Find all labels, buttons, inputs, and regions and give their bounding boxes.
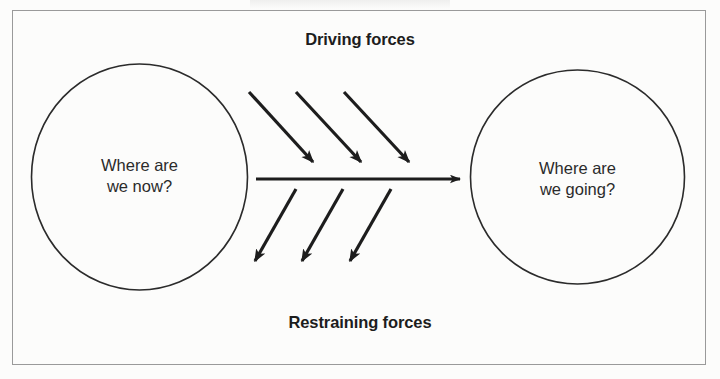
driving-force-arrow-2 xyxy=(296,92,361,162)
node-future-state-label: Where are we going? xyxy=(470,158,685,200)
driving-force-arrow-3 xyxy=(344,92,409,162)
driving-forces-label: Driving forces xyxy=(0,30,720,49)
force-field-diagram-canvas: Driving forces Restraining forces Where … xyxy=(0,0,720,379)
restraining-forces-arrow-group xyxy=(255,189,391,261)
driving-force-arrow-1 xyxy=(249,92,313,162)
node-current-state-label: Where are we now? xyxy=(31,155,248,197)
restraining-forces-label: Restraining forces xyxy=(0,313,720,332)
restraining-force-arrow-1 xyxy=(255,189,296,261)
restraining-force-arrow-3 xyxy=(350,189,391,261)
restraining-force-arrow-2 xyxy=(302,189,343,261)
driving-forces-arrow-group xyxy=(249,92,409,162)
